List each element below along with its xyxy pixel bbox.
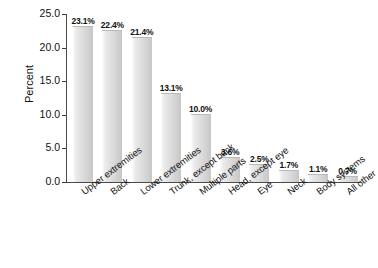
y-axis-tick-label: 15.0	[26, 74, 60, 86]
bar	[132, 37, 152, 182]
y-axis-tick-label: 25.0	[26, 7, 60, 19]
bar	[73, 26, 93, 182]
y-axis-tick-label: 10.0	[26, 108, 60, 120]
y-axis-tick-label: 0.0	[26, 175, 60, 187]
y-axis-tick-label: 20.0	[26, 41, 60, 53]
bar-value-label: 21.4%	[125, 27, 159, 37]
bar-chart: Percent 0.05.010.015.020.025.0 23.1%22.4…	[0, 0, 378, 268]
bar-value-label: 10.0%	[184, 104, 218, 114]
bar-value-label: 13.1%	[154, 83, 188, 93]
y-axis-tick-label: 5.0	[26, 141, 60, 153]
